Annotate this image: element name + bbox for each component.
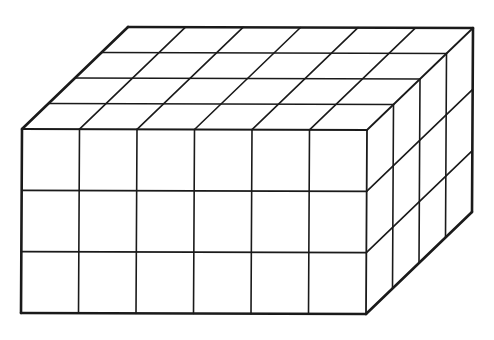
prism-outline [21,27,473,314]
side-grid-vertical [446,54,447,238]
front-bottom-edge [21,313,366,314]
front-grid-vertical [251,130,252,314]
front-left-edge [21,129,22,313]
right-side-face [366,54,472,289]
back-right-edge [472,28,473,212]
rectangular-prism-diagram [0,0,494,340]
front-grid-horizontal [22,190,367,191]
front-grid-horizontal [21,252,366,253]
front-grid-vertical [309,130,310,314]
front-right-edge [366,130,367,314]
front-grid-vertical [194,130,195,314]
top-grid-width [102,53,447,54]
side-grid-vertical [393,105,394,289]
top-face [49,27,447,130]
front-top-edge [22,129,367,130]
front-face [21,129,366,314]
back-top-edge [128,27,473,28]
top-grid-width [49,104,394,105]
front-grid-vertical [136,129,137,313]
front-grid-vertical [79,129,80,313]
diagram-canvas [0,0,494,340]
top-grid-width [75,78,420,79]
side-grid-vertical [419,79,420,263]
